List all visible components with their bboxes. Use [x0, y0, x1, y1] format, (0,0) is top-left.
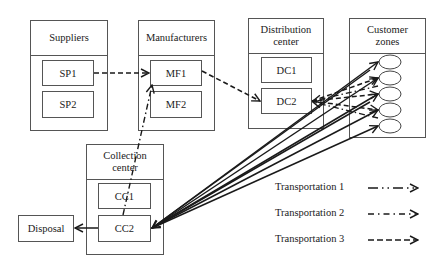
legend-label-transport-1: Transportation 1	[275, 181, 344, 192]
node-mf1[interactable]: MF1	[150, 60, 202, 86]
node-cc2[interactable]: CC2	[98, 215, 151, 242]
node-mf2[interactable]: MF2	[150, 91, 202, 118]
customer-zones-title: Customer zones	[350, 19, 425, 54]
node-cc1[interactable]: CC1	[98, 183, 151, 209]
legend-label-transport-2: Transportation 2	[275, 207, 344, 218]
disposal-node[interactable]: Disposal	[18, 215, 74, 242]
node-sp1[interactable]: SP1	[42, 60, 94, 86]
manufacturers-title: Manufacturers	[139, 21, 214, 56]
node-dc2[interactable]: DC2	[261, 88, 312, 114]
legend-label-transport-3: Transportation 3	[275, 233, 344, 244]
node-dc1[interactable]: DC1	[261, 57, 312, 83]
collection-title: Collection center	[87, 145, 163, 180]
node-sp2[interactable]: SP2	[42, 91, 94, 118]
suppliers-title: Suppliers	[31, 21, 107, 56]
customer-zones-group: Customer zones	[349, 18, 426, 138]
distribution-title: Distribution center	[249, 19, 323, 54]
